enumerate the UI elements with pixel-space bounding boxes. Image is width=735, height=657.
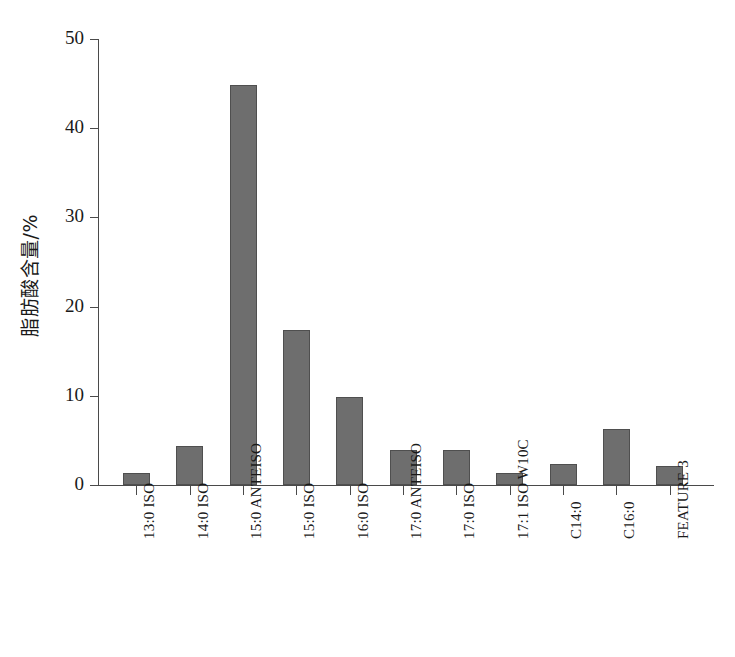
bar [230, 85, 257, 485]
x-tick-label: 16:0 ISO [356, 483, 371, 539]
y-tick-label: 40 [65, 116, 84, 138]
y-tick: 10 [90, 396, 98, 397]
bar [443, 450, 470, 485]
y-tick-label: 30 [65, 205, 84, 227]
x-tick [403, 486, 404, 495]
bar [603, 429, 630, 485]
y-tick: 50 [90, 39, 98, 40]
y-tick: 30 [90, 217, 98, 218]
x-tick-label: FEATURE 3 [676, 460, 691, 539]
x-tick [350, 486, 351, 495]
plot-area: 01020304050 13:0 ISO14:0 ISO15:0 ANTEISO… [98, 39, 714, 485]
x-tick-label: 17:0 ISO [462, 483, 477, 539]
x-tick-label: 15:0 ISO [302, 483, 317, 539]
x-tick-label: 14:0 ISO [196, 483, 211, 539]
y-axis-line [98, 39, 99, 485]
x-tick-label: 13:0 ISO [142, 483, 157, 539]
y-tick-label: 20 [65, 295, 84, 317]
x-tick [190, 486, 191, 495]
x-tick [456, 486, 457, 495]
bar [176, 446, 203, 485]
x-tick [510, 486, 511, 495]
y-tick-label: 10 [65, 384, 84, 406]
x-tick [136, 486, 137, 495]
x-tick [563, 486, 564, 495]
bar [336, 397, 363, 485]
y-tick: 0 [90, 485, 98, 486]
x-tick-label: 17:0 ANTEISO [409, 443, 424, 539]
x-tick-label: C16:0 [622, 501, 637, 539]
x-tick [296, 486, 297, 495]
y-tick: 40 [90, 128, 98, 129]
bar [283, 330, 310, 485]
y-tick-label: 50 [65, 27, 84, 49]
fatty-acid-bar-chart: 脂肪酸含量/% 01020304050 13:0 ISO14:0 ISO15:0… [0, 0, 735, 657]
x-tick [670, 486, 671, 495]
y-tick: 20 [90, 307, 98, 308]
y-tick-label: 0 [75, 473, 85, 495]
x-tick-label: 15:0 ANTEISO [249, 443, 264, 539]
x-tick [616, 486, 617, 495]
x-tick-label: 17:1 ISO W10C [516, 439, 531, 539]
x-tick-label: C14:0 [569, 501, 584, 539]
x-tick [243, 486, 244, 495]
y-axis-title: 脂肪酸含量/% [15, 196, 42, 356]
bar [550, 464, 577, 485]
